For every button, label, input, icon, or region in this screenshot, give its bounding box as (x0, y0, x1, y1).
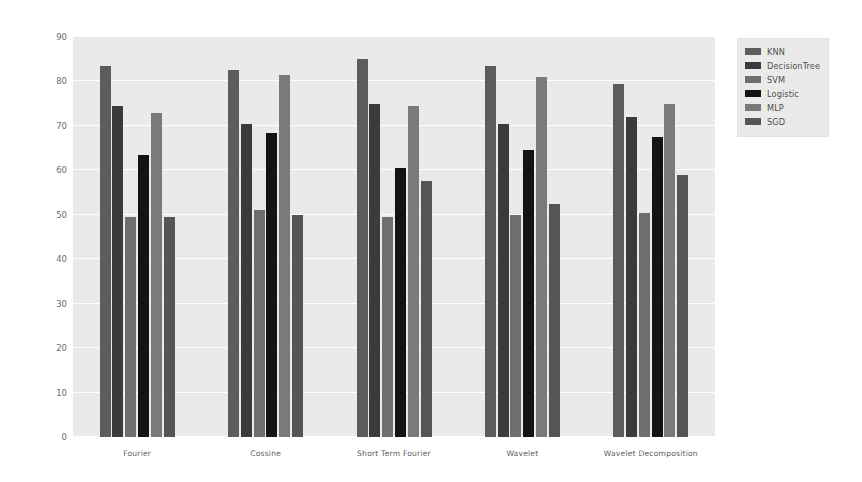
bar (498, 124, 509, 437)
legend-swatch-icon (745, 118, 761, 125)
bar (254, 210, 265, 437)
bar (382, 217, 393, 437)
y-axis-ticks: 0102030405060708090 (22, 37, 67, 437)
bar (677, 175, 688, 437)
y-tick-label: 0 (27, 432, 67, 442)
y-tick-label: 20 (27, 343, 67, 353)
bar (369, 104, 380, 437)
bar (664, 104, 675, 437)
plot-area (73, 37, 715, 437)
bar-group (228, 37, 303, 437)
y-tick-label: 60 (27, 165, 67, 175)
bar (510, 215, 521, 437)
bar (421, 181, 432, 437)
legend-item-label: KNN (767, 47, 785, 57)
legend-item[interactable]: Logistic (745, 87, 820, 100)
x-tick-label: Fourier (123, 449, 151, 458)
bar (408, 106, 419, 437)
bar (266, 133, 277, 437)
x-tick-label: Short Term Fourier (357, 449, 431, 458)
bar (652, 137, 663, 437)
y-tick-label: 70 (27, 121, 67, 131)
bar (228, 70, 239, 437)
legend-item-label: MLP (767, 103, 784, 113)
bar (292, 215, 303, 437)
y-tick-label: 50 (27, 210, 67, 220)
bar (279, 75, 290, 437)
legend-item-label: DecisionTree (767, 61, 820, 71)
bar (549, 204, 560, 437)
bar (357, 59, 368, 437)
legend-item[interactable]: MLP (745, 101, 820, 114)
bar (125, 217, 136, 437)
legend-swatch-icon (745, 104, 761, 111)
legend-item-label: SVM (767, 75, 785, 85)
legend-item[interactable]: SVM (745, 73, 820, 86)
bar-group (485, 37, 560, 437)
x-tick-label: Wavelet Decomposition (604, 449, 698, 458)
legend-item[interactable]: KNN (745, 45, 820, 58)
bar (151, 113, 162, 437)
bar (241, 124, 252, 437)
legend-item-label: Logistic (767, 89, 799, 99)
y-tick-label: 90 (27, 32, 67, 42)
bar-chart-figure: 0102030405060708090 Precision FourierCos… (0, 0, 862, 482)
bar (164, 217, 175, 437)
legend-swatch-icon (745, 90, 761, 97)
legend-item-label: SGD (767, 117, 785, 127)
bar-group (613, 37, 688, 437)
bar-group (357, 37, 432, 437)
bar (613, 84, 624, 437)
bar (138, 155, 149, 437)
y-tick-label: 30 (27, 299, 67, 309)
y-tick-label: 80 (27, 76, 67, 86)
legend-swatch-icon (745, 76, 761, 83)
bar (639, 213, 650, 437)
x-tick-label: Wavelet (506, 449, 538, 458)
bar (536, 77, 547, 437)
bar (626, 117, 637, 437)
bar (523, 150, 534, 437)
legend-item[interactable]: SGD (745, 115, 820, 128)
bar (485, 66, 496, 437)
legend-swatch-icon (745, 62, 761, 69)
legend: KNNDecisionTreeSVMLogisticMLPSGD (737, 38, 829, 137)
bar-group (100, 37, 175, 437)
legend-item[interactable]: DecisionTree (745, 59, 820, 72)
x-tick-label: Cossine (250, 449, 281, 458)
y-tick-label: 40 (27, 254, 67, 264)
legend-swatch-icon (745, 48, 761, 55)
bar (100, 66, 111, 437)
bar (112, 106, 123, 437)
bar (395, 168, 406, 437)
y-tick-label: 10 (27, 388, 67, 398)
